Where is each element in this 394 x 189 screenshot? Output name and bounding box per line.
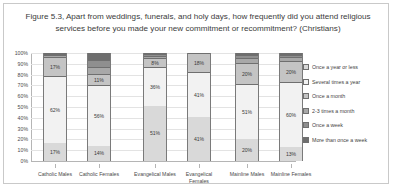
x-axis-tick [291, 164, 292, 168]
bar-segment-label: 56% [94, 113, 104, 119]
bar-segment[interactable]: 56% [88, 85, 110, 145]
legend-swatch-icon [303, 137, 309, 143]
legend-swatch-icon [303, 122, 309, 128]
x-axis-category-label: Catholic Males [32, 171, 78, 178]
bar-segment[interactable] [144, 54, 166, 56]
y-axis-tick-label: 70% [18, 82, 28, 88]
bar-segment-label: 17% [50, 64, 60, 70]
bar-segment[interactable] [144, 56, 166, 58]
y-axis-tick-label: 10% [18, 147, 28, 153]
bar-segment-label: 51% [150, 130, 160, 136]
legend-item[interactable]: Once a year or less [303, 60, 393, 75]
x-axis-category-label: Mainline Females [268, 171, 314, 178]
x-axis-tick [247, 164, 248, 168]
x-axis-tick [55, 164, 56, 168]
legend-item[interactable]: 2-3 times a month [303, 104, 393, 119]
bar-segment[interactable]: 41% [188, 117, 210, 161]
bar-segment-label: 18% [194, 60, 204, 66]
y-axis-tick-label: 100% [15, 50, 28, 56]
y-axis-labels: 0%10%20%30%40%50%60%70%80%90%100% [4, 49, 30, 165]
bar-segment[interactable]: 14% [88, 146, 110, 161]
bar-segment[interactable]: 51% [144, 106, 166, 161]
bar-segment-label: 8% [151, 60, 158, 66]
bar-segment[interactable]: 20% [280, 61, 302, 83]
legend-item-label: Several times a year [312, 79, 360, 85]
bar-segment[interactable] [44, 54, 66, 55]
bar-segment[interactable]: 60% [280, 82, 302, 147]
bar-segment-label: 41% [194, 92, 204, 98]
bar-segment-label: 20% [286, 69, 296, 75]
grid-line [31, 161, 296, 162]
bar-segment-label: 36% [150, 84, 160, 90]
bar-segment[interactable] [88, 67, 110, 73]
legend-swatch-icon [303, 93, 309, 99]
y-axis-tick-label: 30% [18, 126, 28, 132]
legend-item[interactable]: More than once a week [303, 133, 393, 148]
bar-segment-label: 60% [286, 112, 296, 118]
chart-title: Figure 5.3, Apart from weddings, funeral… [22, 11, 374, 34]
x-axis-category-label: Evangelical Males [132, 171, 178, 178]
bar-segment[interactable]: 51% [236, 84, 258, 139]
x-axis-category-label: Mainline Males [224, 171, 270, 178]
bar-segment-label: 20% [242, 147, 252, 153]
bar-segment[interactable] [44, 53, 66, 54]
legend-item[interactable]: Several times a year [303, 75, 393, 90]
legend-swatch-icon [303, 108, 309, 114]
bar-segment-label: 17% [50, 149, 60, 155]
bar-segment[interactable]: 41% [188, 72, 210, 116]
y-axis-tick-label: 60% [18, 93, 28, 99]
bar-segment[interactable]: 11% [88, 74, 110, 86]
bar-segment-label: 51% [242, 109, 252, 115]
bar-segment-label: 11% [94, 77, 104, 83]
bar-column[interactable]: 20%51%20% [235, 53, 259, 161]
legend-swatch-icon [303, 79, 309, 85]
bar-segment[interactable] [88, 53, 110, 59]
bar-segment[interactable] [144, 53, 166, 54]
y-axis-tick-label: 40% [18, 115, 28, 121]
bar-segment[interactable]: 20% [236, 139, 258, 161]
x-axis-category-label: Evangelical Females [176, 171, 222, 185]
legend-item[interactable]: Once a month [303, 89, 393, 104]
bar-segment[interactable] [236, 55, 258, 58]
bar-segment[interactable]: 36% [144, 67, 166, 106]
legend-item-label: Once a week [312, 122, 343, 128]
y-axis-tick-label: 80% [18, 72, 28, 78]
y-axis-tick-label: 20% [18, 136, 28, 142]
bar-segment[interactable] [44, 55, 66, 57]
bar-segment[interactable]: 17% [44, 143, 66, 161]
bar-segment[interactable] [280, 57, 302, 60]
x-axis-tick [99, 164, 100, 168]
bar-column[interactable]: 13%60%20% [279, 53, 303, 161]
x-axis-category-labels: Catholic MalesCatholic FemalesEvangelica… [31, 164, 296, 184]
chart-frame: Figure 5.3, Apart from weddings, funeral… [3, 3, 389, 184]
x-axis-tick [199, 164, 200, 168]
bar-column[interactable]: 14%56%11% [87, 53, 111, 161]
bar-segment[interactable]: 62% [44, 76, 66, 143]
plot-area: 17%62%17%14%56%11%51%36%8%41%41%18%20%51… [31, 53, 296, 161]
legend-item[interactable]: Once a week [303, 118, 393, 133]
bar-segment[interactable] [236, 58, 258, 62]
bar-column[interactable]: 41%41%18% [187, 53, 211, 161]
bar-segment[interactable]: 20% [236, 63, 258, 85]
bar-segment[interactable] [280, 53, 302, 55]
bar-segment[interactable] [236, 53, 258, 55]
legend-swatch-icon [303, 64, 309, 70]
bar-segment[interactable]: 18% [188, 53, 210, 72]
x-axis-tick [155, 164, 156, 168]
bar-segment[interactable] [280, 55, 302, 57]
bar-column[interactable]: 17%62%17% [43, 53, 67, 161]
bar-segment[interactable]: 17% [44, 57, 66, 75]
x-axis-category-label: Catholic Females [76, 171, 122, 178]
legend-item-label: Once a month [312, 93, 345, 99]
y-axis-tick-label: 50% [18, 104, 28, 110]
y-axis-tick-label: 90% [18, 61, 28, 67]
legend-item-label: Once a year or less [312, 64, 358, 70]
bar-segment[interactable]: 13% [280, 147, 302, 161]
bar-segment[interactable] [88, 60, 110, 68]
bar-segment[interactable]: 8% [144, 58, 166, 67]
bar-segment-label: 13% [286, 151, 296, 157]
bar-segment-label: 14% [94, 150, 104, 156]
legend-item-label: More than once a week [312, 137, 367, 143]
bar-segment-label: 62% [50, 107, 60, 113]
bar-column[interactable]: 51%36%8% [143, 53, 167, 161]
